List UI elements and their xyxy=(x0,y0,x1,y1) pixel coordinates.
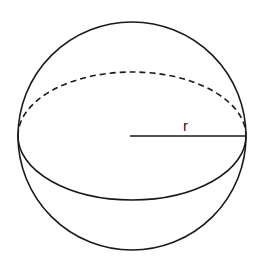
radius-label: r xyxy=(183,117,188,134)
equator-back-dashed xyxy=(18,72,246,136)
sphere-diagram: r xyxy=(0,0,260,266)
equator-front xyxy=(18,136,246,200)
